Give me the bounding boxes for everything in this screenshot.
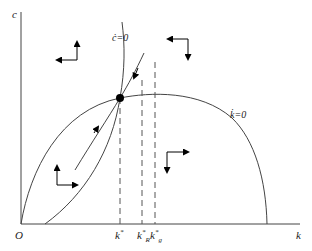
direction-arrows-lower-right-icon (167, 152, 188, 172)
direction-arrows-lower-left-icon (57, 166, 77, 185)
saddle-arrow-lower-icon (94, 127, 98, 133)
direction-arrows-upper-left-icon (57, 42, 77, 60)
c-dot-zero-label: ċ=0 (112, 33, 128, 43)
tick-k-R: k*R (137, 229, 150, 244)
c-dot-zero-curve (45, 22, 124, 224)
x-axis-label: k (296, 230, 301, 241)
k-dot-zero-label: k̇=0 (230, 110, 246, 120)
tick-k-star: k* (115, 229, 123, 241)
origin-label: O (15, 230, 23, 241)
y-axis-label: c (12, 9, 17, 20)
steady-state-point (116, 94, 124, 102)
direction-arrows-upper-right-icon (168, 39, 188, 59)
phase-diagram (0, 0, 312, 251)
tick-k-g: k*g (150, 229, 162, 244)
